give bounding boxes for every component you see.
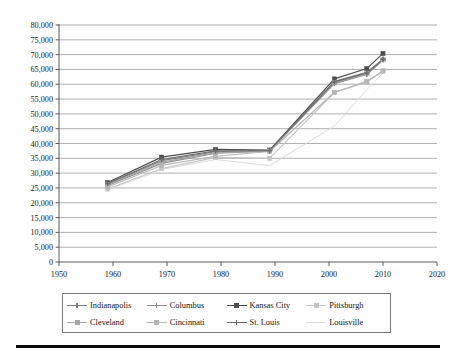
data-markers bbox=[105, 51, 386, 191]
legend-row-2: Cleveland Cincinnati St. Louis Louisvill… bbox=[67, 314, 386, 331]
x-tick-label: 1980 bbox=[213, 270, 229, 279]
legend-marker-kansas-city bbox=[227, 300, 247, 311]
chart-figure: 05,00010,00015,00020,00025,00030,00035,0… bbox=[0, 0, 457, 356]
legend-point-marker bbox=[154, 305, 159, 307]
legend-marker-cincinnati bbox=[147, 317, 167, 328]
legend-label-cleveland: Cleveland bbox=[90, 317, 124, 328]
legend-label-indianapolis: Indianapolis bbox=[90, 300, 131, 311]
bottom-rule bbox=[16, 345, 440, 348]
legend-item-cincinnati[interactable]: Cincinnati bbox=[147, 314, 227, 331]
y-tick-label: 20,000 bbox=[30, 199, 53, 208]
data-point-marker bbox=[381, 51, 385, 55]
legend-point-marker bbox=[314, 303, 319, 308]
data-point-marker bbox=[332, 90, 336, 94]
x-tick-label: 1990 bbox=[267, 270, 283, 279]
gridlines bbox=[59, 25, 437, 247]
x-tick-label: 2020 bbox=[429, 270, 445, 279]
data-point-marker bbox=[160, 163, 164, 167]
y-tick-label: 80,000 bbox=[30, 21, 53, 30]
legend-item-kansas-city[interactable]: Kansas City bbox=[227, 297, 307, 314]
y-tick-label: 10,000 bbox=[30, 228, 53, 237]
legend-label-louisville: Louisville bbox=[329, 317, 363, 328]
legend-marker-indianapolis bbox=[67, 300, 87, 311]
y-tick-label: 60,000 bbox=[30, 80, 53, 89]
legend-marker-pittsburgh bbox=[306, 300, 326, 311]
legend-label-columbus: Columbus bbox=[170, 300, 204, 311]
series-line-pittsburgh bbox=[108, 70, 383, 189]
data-point-marker bbox=[268, 156, 272, 160]
legend-label-st-louis: St. Louis bbox=[250, 317, 280, 328]
y-tick-label: 45,000 bbox=[30, 125, 53, 134]
legend-label-pittsburgh: Pittsburgh bbox=[329, 300, 363, 311]
x-tick-label: 1960 bbox=[105, 270, 121, 279]
legend-label-kansas-city: Kansas City bbox=[250, 300, 291, 311]
legend-marker-cleveland bbox=[67, 317, 87, 328]
y-tick-label: 35,000 bbox=[30, 154, 53, 163]
legend-item-st-louis[interactable]: St. Louis bbox=[227, 314, 307, 331]
legend-point-marker bbox=[75, 320, 80, 325]
legend-point-marker bbox=[234, 322, 239, 324]
data-point-marker bbox=[214, 154, 218, 158]
x-tick-label: 1970 bbox=[159, 270, 175, 279]
data-point-marker bbox=[365, 79, 369, 83]
y-tick-label: 50,000 bbox=[30, 110, 53, 119]
legend-item-pittsburgh[interactable]: Pittsburgh bbox=[306, 297, 386, 314]
chart-legend: Indianapolis Columbus Kansas City Pittsb… bbox=[62, 293, 391, 333]
x-axis-tick-labels: 19501960197019801990200020102020 bbox=[51, 270, 445, 279]
data-point-marker bbox=[381, 69, 385, 73]
y-tick-label: 55,000 bbox=[30, 95, 53, 104]
y-tick-label: 75,000 bbox=[30, 36, 53, 45]
series-line-st-louis bbox=[108, 59, 383, 183]
data-series bbox=[108, 53, 383, 190]
y-tick-label: 65,000 bbox=[30, 65, 53, 74]
legend-marker-st-louis bbox=[227, 317, 247, 328]
data-point-marker bbox=[365, 66, 369, 70]
legend-point-marker bbox=[154, 320, 159, 325]
x-axis-ticks bbox=[59, 262, 437, 266]
x-tick-label: 1950 bbox=[51, 270, 67, 279]
legend-point-marker bbox=[74, 305, 79, 307]
y-tick-label: 40,000 bbox=[30, 140, 53, 149]
series-line-cincinnati bbox=[108, 71, 383, 187]
y-tick-label: 5,000 bbox=[35, 243, 53, 252]
y-axis-ticks bbox=[56, 25, 60, 262]
legend-item-cleveland[interactable]: Cleveland bbox=[67, 314, 147, 331]
x-tick-label: 2010 bbox=[375, 270, 391, 279]
legend-marker-columbus bbox=[147, 300, 167, 311]
legend-line bbox=[306, 322, 326, 323]
y-tick-label: 70,000 bbox=[30, 51, 53, 60]
x-tick-label: 2000 bbox=[321, 270, 337, 279]
legend-item-louisville[interactable]: Louisville bbox=[306, 314, 386, 331]
y-tick-label: 25,000 bbox=[30, 184, 53, 193]
legend-item-indianapolis[interactable]: Indianapolis bbox=[67, 297, 147, 314]
y-tick-label: 0 bbox=[49, 258, 53, 267]
legend-point-marker bbox=[234, 303, 239, 308]
legend-marker-louisville bbox=[306, 317, 326, 328]
legend-row-1: Indianapolis Columbus Kansas City Pittsb… bbox=[67, 297, 386, 314]
legend-label-cincinnati: Cincinnati bbox=[170, 317, 205, 328]
y-tick-label: 30,000 bbox=[30, 169, 53, 178]
y-tick-label: 15,000 bbox=[30, 214, 53, 223]
legend-item-columbus[interactable]: Columbus bbox=[147, 297, 227, 314]
y-axis-tick-labels: 05,00010,00015,00020,00025,00030,00035,0… bbox=[30, 21, 53, 267]
